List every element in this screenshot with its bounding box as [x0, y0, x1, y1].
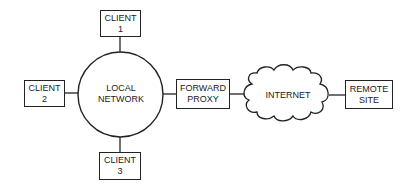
forward-proxy-node: FORWARD PROXY — [176, 79, 230, 109]
forward-proxy-line2: PROXY — [187, 94, 219, 105]
client-2-number: 2 — [42, 94, 47, 105]
client-3-node: CLIENT 3 — [99, 152, 141, 180]
local-network-line1: LOCAL — [90, 83, 152, 94]
remote-site-line2: SITE — [359, 95, 379, 106]
client-3-label: CLIENT — [104, 155, 136, 166]
forward-proxy-line1: FORWARD — [180, 83, 226, 94]
local-network-line2: NETWORK — [90, 94, 152, 105]
local-network-label: LOCAL NETWORK — [90, 83, 152, 105]
client-1-number: 1 — [118, 24, 123, 35]
client-2-label: CLIENT — [28, 83, 60, 94]
remote-site-line1: REMOTE — [350, 84, 389, 95]
client-1-label: CLIENT — [104, 13, 136, 24]
client-3-number: 3 — [117, 166, 122, 177]
client-2-node: CLIENT 2 — [24, 80, 65, 107]
internet-label: INTERNET — [256, 90, 320, 101]
client-1-node: CLIENT 1 — [100, 10, 141, 37]
remote-site-node: REMOTE SITE — [345, 80, 393, 109]
